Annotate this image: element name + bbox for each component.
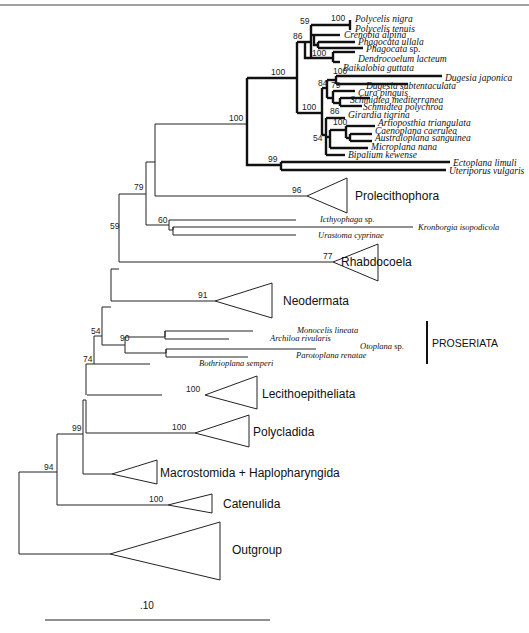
clade-label-lecithoepitheliata: Lecithoepitheliata xyxy=(262,387,356,401)
clade-label-rhabdocoela: Rhabdocoela xyxy=(341,255,412,269)
neodermata-triangle xyxy=(215,283,272,318)
tree-canvas: Polycelis nigra Polycelis tenuis Crenobi… xyxy=(0,0,529,633)
bootstrap-value: 59 xyxy=(300,16,310,26)
phylogenetic-tree-figure: Polycelis nigra Polycelis tenuis Crenobi… xyxy=(0,0,529,633)
bootstrap-value: 74 xyxy=(83,354,93,364)
taxon-label: Baikalobia guttata xyxy=(343,63,414,73)
bootstrap-value: 54 xyxy=(91,326,101,336)
clade-label-outgroup: Outgroup xyxy=(232,543,282,557)
bootstrap-value: 100 xyxy=(229,113,243,123)
lecithoepitheliata-triangle xyxy=(205,376,257,409)
taxon-label: Kronborgia isopodicola xyxy=(417,222,499,232)
bootstrap-value: 100 xyxy=(312,48,326,58)
bootstrap-value: 100 xyxy=(331,13,345,23)
bootstrap-value: 86 xyxy=(293,31,303,41)
clade-label-polycladida: Polycladida xyxy=(253,425,315,439)
bootstrap-value: 100 xyxy=(333,66,347,76)
bootstrap-value: 79 xyxy=(134,182,144,192)
macrostomida-triangle xyxy=(112,460,157,484)
bootstrap-value: 100 xyxy=(149,494,163,504)
bootstrap-value: 94 xyxy=(44,462,54,472)
clade-label-neodermata: Neodermata xyxy=(283,294,349,308)
taxon-label: Bothrioplana semperi xyxy=(199,358,274,368)
bootstrap-value: 100 xyxy=(333,117,347,127)
taxon-label: Phagocata sp. xyxy=(365,44,420,54)
clade-label-prolecithophora: Prolecithophora xyxy=(355,189,439,203)
polycladida-triangle xyxy=(195,415,249,447)
catenulida-triangle xyxy=(168,494,212,513)
bootstrap-value: 59 xyxy=(110,221,120,231)
bootstrap-value: 77 xyxy=(323,251,333,261)
bootstrap-value: 96 xyxy=(292,185,302,195)
taxon-label: Bipalium kewense xyxy=(348,150,417,160)
bootstrap-value: 90 xyxy=(120,333,130,343)
bootstrap-value: 54 xyxy=(313,133,323,143)
bootstrap-value: 79 xyxy=(331,80,341,90)
taxon-label: Icthyophaga sp. xyxy=(319,214,374,224)
taxon-label: Otoplana sp. xyxy=(360,341,404,351)
taxon-label: Urastoma cyprinae xyxy=(318,230,384,240)
scale-bar-label: .10 xyxy=(140,600,154,611)
bootstrap-value: 99 xyxy=(268,154,278,164)
taxon-label: Parotoplana renatae xyxy=(295,350,367,360)
taxon-label: Uteriporus vulgaris xyxy=(449,166,525,176)
bootstrap-value: 100 xyxy=(302,102,316,112)
bootstrap-value: 91 xyxy=(198,290,208,300)
taxon-label: Archiloa rivularis xyxy=(269,333,332,343)
bootstrap-value: 100 xyxy=(172,422,186,432)
bootstrap-value: 84 xyxy=(318,78,328,88)
bootstrap-value: 99 xyxy=(72,423,82,433)
outgroup-triangle xyxy=(110,522,220,580)
bootstrap-value: 86 xyxy=(330,106,340,116)
bootstrap-value: 60 xyxy=(158,215,168,225)
clade-label-catenulida: Catenulida xyxy=(223,497,281,511)
prolecithophora-triangle xyxy=(307,178,347,213)
taxon-label: Polycelis nigra xyxy=(354,14,413,24)
backbone-branches xyxy=(19,124,413,554)
clade-label-proseriata: PROSERIATA xyxy=(432,337,498,349)
bootstrap-value: 100 xyxy=(271,67,285,77)
bootstrap-value: 100 xyxy=(186,384,200,394)
clade-label-macrostomida: Macrostomida + Haplopharyngida xyxy=(160,466,340,480)
